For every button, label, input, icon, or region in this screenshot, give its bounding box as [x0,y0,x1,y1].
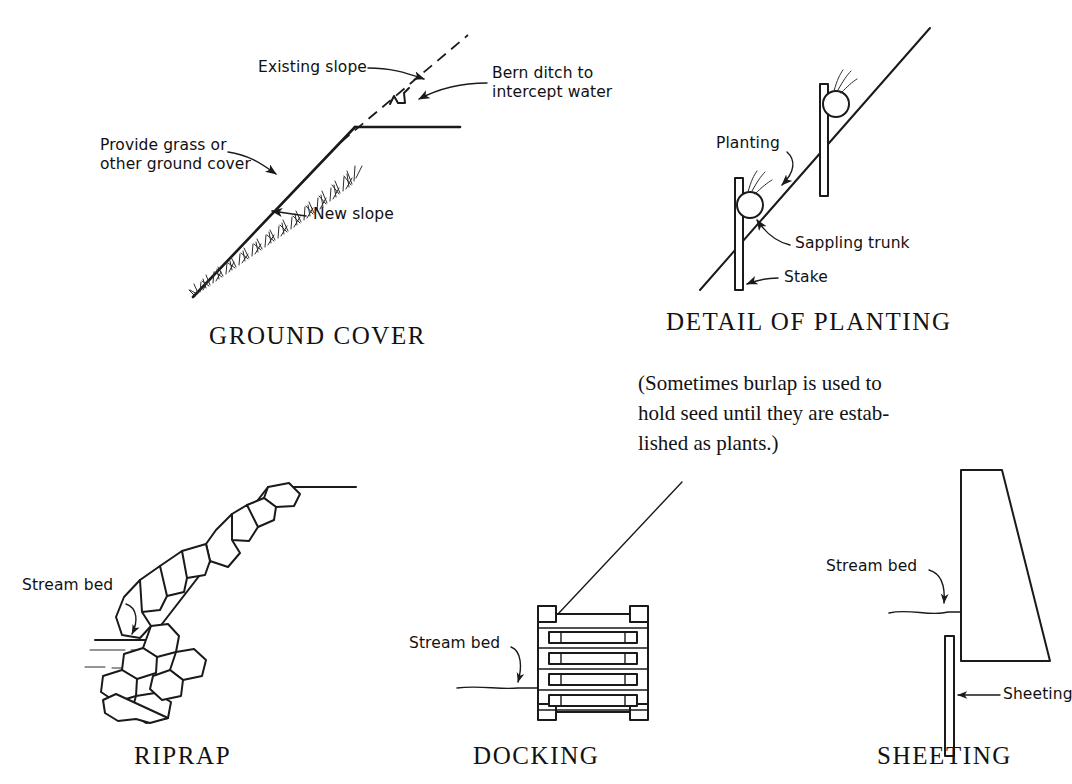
sheeting-plank [945,636,954,756]
sheeting-wall-trapezoid [961,470,1050,661]
upper-planting-foliage [834,70,857,93]
sheeting-stream-bed-line [889,611,961,613]
figure-riprap [85,483,356,723]
label-riprap-stream-bed: Stream bed [22,576,113,595]
technical-drawings-canvas [0,0,1072,784]
upper-sapling-trunk [823,91,849,117]
label-stake: Stake [784,268,828,287]
caption-ground-cover: GROUND COVER [209,322,426,350]
figure-sheeting [889,470,1050,756]
diagram-page: Existing slope Bern ditch to intercept w… [0,0,1072,784]
figure-docking [457,482,682,720]
caption-detail-of-planting: DETAIL OF PLANTING [666,308,952,336]
riprap-stones [101,483,300,723]
lower-planting-foliage [748,171,772,194]
caption-riprap: RIPRAP [134,742,231,770]
label-existing-slope: Existing slope [258,58,367,77]
berm-ditch-notch [390,88,409,104]
label-sapling-trunk: Sappling trunk [795,234,910,253]
caption-docking: DOCKING [473,742,599,770]
label-sheeting-stream-bed: Stream bed [826,557,917,576]
note-burlap: (Sometimes burlap is used to hold seed u… [638,368,889,458]
docking-stream-bed-leader [511,647,520,682]
existing-slope-leader [368,68,424,79]
ground-cover-grass-hatching [189,166,362,296]
lower-sapling-trunk [737,192,763,218]
label-sheeting: Sheeting [1003,685,1072,704]
label-new-slope: New slope [313,205,394,224]
sapling-trunk-leader [757,220,790,245]
sheeting-stream-bed-leader [929,570,944,603]
caption-sheeting: SHEETING [877,742,1012,770]
label-provide-ground-cover: Provide grass or other ground cover [100,136,251,174]
planting-leader [782,152,793,185]
label-planting: Planting [716,134,780,153]
docking-bank-diagonal-line [558,482,682,614]
berm-ditch-leader [419,83,487,99]
label-docking-stream-bed: Stream bed [409,634,500,653]
stake-leader [747,278,778,284]
new-slope-leader [272,211,306,216]
label-berm-ditch: Bern ditch to intercept water [492,64,612,102]
